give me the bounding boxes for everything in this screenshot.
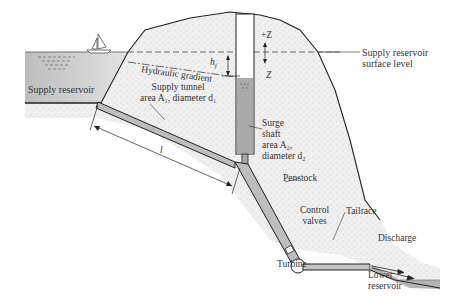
label-lower-reservoir: Lower reservoir [368,270,402,292]
label-turbine: Turbine [277,259,307,270]
label-z: Z [266,70,271,81]
label-hf: hf [210,57,217,72]
surge-shaft-diagram [0,0,467,303]
label-supply-tunnel: Supply tunnel area A₁, diameter d₁ [140,82,216,104]
label-plus-z: +Z [261,30,272,41]
label-surge-shaft: Surge shaft area A₂, diameter d₂ [262,118,306,162]
label-control-valves: Control valves [300,205,329,227]
sailboat-icon [87,34,111,53]
label-length: l [160,145,163,156]
label-supply-reservoir: Supply reservoir [28,84,94,95]
label-penstock: Penstock [283,173,317,184]
label-surface-level: Supply reservoir surface level [362,47,428,69]
label-tailrace: Tailrace [346,206,376,217]
surge-shaft-water [237,78,253,154]
tailrace [303,264,370,270]
label-discharge: Discharge [378,233,416,244]
